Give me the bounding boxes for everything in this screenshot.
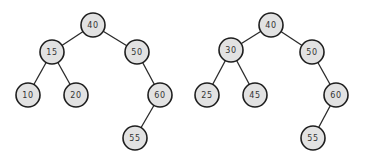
tree-node-60: 60 [324,83,348,107]
nodes-layer: 4015501020605540305025456055 [16,13,348,150]
node-label: 60 [330,91,341,100]
tree-node-25: 25 [195,83,219,107]
edges-layer [28,25,336,138]
node-label: 40 [87,21,98,30]
left-tree: 40155010206055 [16,13,172,150]
node-label: 55 [129,134,140,143]
tree-node-30: 30 [219,38,243,62]
node-label: 10 [22,91,33,100]
tree-diagram: 4015501020605540305025456055 [0,0,365,156]
tree-node-50: 50 [125,40,149,64]
node-label: 25 [201,91,212,100]
node-label: 30 [225,46,236,55]
node-label: 45 [249,91,260,100]
tree-node-55: 55 [123,126,147,150]
node-label: 15 [46,48,57,57]
tree-node-15: 15 [40,40,64,64]
tree-node-45: 45 [243,83,267,107]
tree-node-60: 60 [148,83,172,107]
tree-node-40: 40 [259,13,283,37]
node-label: 60 [154,91,165,100]
tree-node-55: 55 [301,126,325,150]
node-label: 50 [131,48,142,57]
tree-node-40: 40 [81,13,105,37]
node-label: 20 [70,91,81,100]
tree-node-50: 50 [300,40,324,64]
node-label: 50 [306,48,317,57]
tree-node-10: 10 [16,83,40,107]
tree-node-20: 20 [64,83,88,107]
node-label: 55 [307,134,318,143]
right-tree: 40305025456055 [195,13,348,150]
node-label: 40 [265,21,276,30]
